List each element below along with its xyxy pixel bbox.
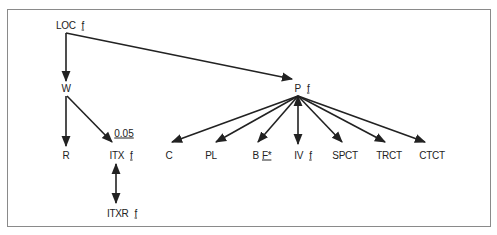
edges-layer xyxy=(0,0,497,235)
node-ctct: CTCT xyxy=(419,150,444,161)
edge-p-ctct xyxy=(298,96,425,142)
node-spct: SPCT xyxy=(332,150,357,161)
node-spct-name: SPCT xyxy=(332,150,357,161)
node-p-mark: f xyxy=(307,83,309,94)
node-itxr: ITXRf xyxy=(107,208,137,219)
node-c-name: C xyxy=(166,150,173,161)
node-b-mark: F* xyxy=(262,150,271,161)
node-loc: LOCf xyxy=(56,20,84,31)
node-w: W xyxy=(61,83,70,94)
edge-w-itx xyxy=(67,96,112,142)
node-ctct-name: CTCT xyxy=(419,150,444,161)
node-iv-name: IV xyxy=(294,150,303,161)
edge-p-pl xyxy=(216,96,298,142)
node-itx-name: ITX xyxy=(109,150,124,161)
node-loc-name: LOC xyxy=(56,20,76,31)
node-iv: IVf xyxy=(294,150,311,161)
node-p-name: P xyxy=(295,83,301,94)
node-pl-name: PL xyxy=(205,150,217,161)
edge-p-c xyxy=(172,96,298,142)
node-trct-name: TRCT xyxy=(376,150,401,161)
node-itx: ITXf xyxy=(109,150,132,161)
node-iv-mark: f xyxy=(309,150,311,161)
node-c: C xyxy=(166,150,173,161)
node-itxr-name: ITXR xyxy=(107,208,129,219)
node-b: BF* xyxy=(253,150,272,161)
node-loc-mark: f xyxy=(82,20,84,31)
edge-p-spct xyxy=(298,96,342,142)
node-p: Pf xyxy=(295,83,310,94)
edge-loc-p xyxy=(66,33,292,79)
node-r: R xyxy=(63,150,70,161)
node-trct: TRCT xyxy=(376,150,401,161)
node-r-name: R xyxy=(63,150,70,161)
edge-label-w-itx: 0.05 xyxy=(114,128,133,139)
node-pl: PL xyxy=(205,150,217,161)
node-b-name: B xyxy=(253,150,259,161)
node-itxr-mark: f xyxy=(135,208,137,219)
node-itx-mark: f xyxy=(130,150,132,161)
edge-p-trct xyxy=(298,96,385,142)
node-w-name: W xyxy=(61,83,70,94)
